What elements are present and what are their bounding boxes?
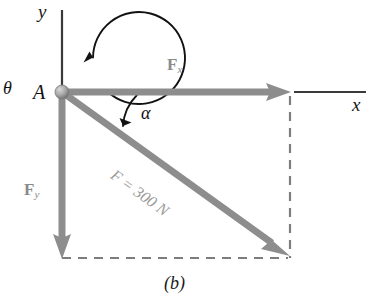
alpha-arrowhead <box>120 118 132 126</box>
fx-vector-label: Fx <box>167 56 182 75</box>
fx-label-subscript: x <box>177 63 182 75</box>
x-axis-label: x <box>352 95 360 114</box>
y-axis-label: y <box>38 2 46 21</box>
theta-angle-label: θ <box>3 79 12 97</box>
point-a-label: A <box>33 82 45 102</box>
fy-label-subscript: y <box>34 188 39 200</box>
fy-label-main: F <box>24 180 34 199</box>
diagram-canvas <box>0 0 372 304</box>
physics-force-diagram: y x A θ α Fx Fy F = 300 N (b) <box>0 0 372 304</box>
f-resultant-shaft <box>62 92 272 243</box>
theta-arrowhead <box>84 52 94 63</box>
fy-vector-label: Fy <box>24 181 39 200</box>
fx-label-main: F <box>167 55 177 74</box>
point-a-node <box>55 85 69 99</box>
alpha-angle-label: α <box>141 104 150 122</box>
figure-caption: (b) <box>164 274 185 292</box>
